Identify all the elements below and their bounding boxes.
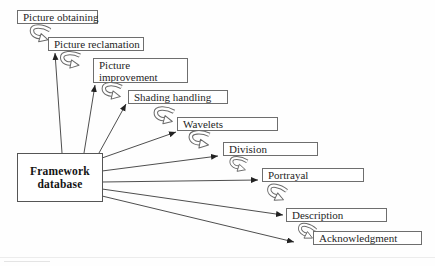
curved-arrow-icon bbox=[97, 80, 124, 104]
stage-box-portrayal: Portrayal bbox=[262, 168, 364, 182]
hub-label-line1: Framework bbox=[30, 165, 90, 178]
stage-box-acknowledgment: Acknowledgment bbox=[313, 231, 422, 245]
stage-box-picture-reclamation: Picture reclamation bbox=[48, 37, 144, 51]
framework-database-box: Framework database bbox=[17, 153, 103, 202]
arrow-hub-to-portrayal bbox=[102, 180, 258, 182]
arrow-hub-to-description bbox=[102, 189, 283, 215]
diagram-canvas: Picture obtaining Picture reclamation Pi… bbox=[0, 0, 435, 266]
arrow-hub-to-wavelets bbox=[102, 132, 176, 158]
arrow-hub-to-picture-improvement bbox=[84, 85, 95, 153]
arrow-hub-to-shading-handling bbox=[99, 104, 126, 153]
stage-box-division: Division bbox=[223, 142, 318, 156]
stage-box-shading-handling: Shading handling bbox=[128, 90, 228, 104]
arrow-hub-to-division bbox=[102, 156, 218, 171]
curved-arrow-icon bbox=[56, 49, 84, 72]
curved-arrow-icon bbox=[185, 128, 213, 152]
stage-box-picture-improvement: Picture improvement bbox=[93, 58, 188, 83]
hub-label-line2: database bbox=[37, 178, 82, 191]
